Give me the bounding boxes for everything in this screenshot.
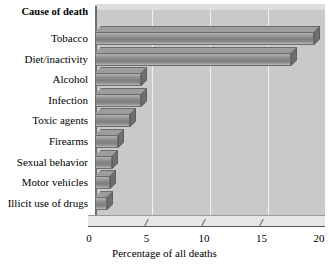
x-axis-tick-label: 10 <box>199 232 210 244</box>
bar-diet-inactivity <box>89 47 291 66</box>
bar-illicit-use-of-drugs <box>89 191 107 210</box>
category-axis-header: Cause of death <box>0 6 88 17</box>
category-label: Motor vehicles <box>0 176 88 188</box>
bar-front-face <box>95 197 107 210</box>
bar-front-face <box>95 32 314 45</box>
category-label: Illicit use of drugs <box>0 197 88 209</box>
bar-front-face <box>95 176 110 189</box>
bar-front-face <box>95 53 291 66</box>
bar-firearms <box>89 129 118 148</box>
category-label: Tobacco <box>0 32 88 44</box>
x-axis-tick-label: 5 <box>144 232 150 244</box>
bar-front-face <box>95 156 112 169</box>
bar-front-face <box>95 135 118 148</box>
bar-tobacco <box>89 26 314 45</box>
bar-sexual-behavior <box>89 150 112 169</box>
bar-motor-vehicles <box>89 170 110 189</box>
x-axis-title: Percentage of all deaths <box>0 247 329 259</box>
bar-front-face <box>95 94 141 107</box>
x-axis-tick-label: 20 <box>314 232 325 244</box>
bar-toxic-agents <box>89 108 130 127</box>
category-label: Diet/inactivity <box>0 53 88 65</box>
bar-front-face <box>95 73 141 86</box>
category-label: Alcohol <box>0 73 88 85</box>
category-label: Infection <box>0 94 88 106</box>
x-axis-tick-label: 0 <box>86 232 92 244</box>
bar-infection <box>89 88 141 107</box>
category-label: Sexual behavior <box>0 156 88 168</box>
x-axis-line <box>88 226 325 227</box>
category-label: Toxic agents <box>0 114 88 126</box>
x-axis-tick-label: 15 <box>256 232 267 244</box>
bar-front-face <box>95 114 130 127</box>
bar-chart: Cause of death TobaccoDiet/inactivityAlc… <box>0 0 329 265</box>
category-label: Firearms <box>0 135 88 147</box>
bar-alcohol <box>89 67 141 86</box>
